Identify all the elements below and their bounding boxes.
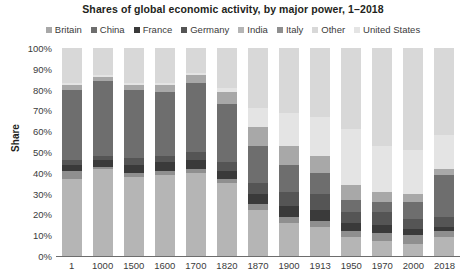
bar-segment[interactable] [248,48,268,108]
bar-segment[interactable] [341,223,361,231]
bar-segment[interactable] [403,235,423,243]
bar-segment[interactable] [217,48,237,88]
bar-segment[interactable] [403,150,423,194]
bar-segment[interactable] [155,92,175,156]
legend-label: China [100,25,125,35]
bar-segment[interactable] [217,183,237,256]
bar-segment[interactable] [434,48,454,135]
bar-segment[interactable] [248,146,268,183]
bar-segment[interactable] [186,173,206,256]
legend-item[interactable]: France [134,25,173,35]
bar-segment[interactable] [248,210,268,256]
stacked-bar[interactable] [279,48,299,256]
bar-segment[interactable] [310,156,330,173]
bar-segment[interactable] [155,48,175,83]
bar-segment[interactable] [279,206,299,216]
bar-segment[interactable] [248,183,268,193]
bar-segment[interactable] [217,171,237,179]
stacked-bar[interactable] [310,48,330,256]
stacked-bar[interactable] [217,48,237,256]
bar-segment[interactable] [403,48,423,150]
legend-item[interactable]: Italy [277,25,303,35]
stacked-bar[interactable] [124,48,144,256]
bar-segment[interactable] [434,217,454,227]
y-tick-label: 70% [33,105,52,116]
bar-segment[interactable] [186,75,206,83]
legend-item[interactable]: Germany [181,25,229,35]
bar-segment[interactable] [217,92,237,104]
legend-item[interactable]: United States [354,25,420,35]
bar-segment[interactable] [341,237,361,256]
bar-segment[interactable] [403,202,423,219]
bar-segment[interactable] [310,117,330,157]
bar-segment[interactable] [124,165,144,173]
legend-item[interactable]: China [91,25,125,35]
bar-segment[interactable] [279,146,299,165]
bar-segment[interactable] [403,219,423,229]
bar-slot [336,48,367,256]
bar-segment[interactable] [217,162,237,170]
bar-segment[interactable] [124,177,144,256]
bar-segment[interactable] [372,241,392,256]
bar-segment[interactable] [310,48,330,117]
bar-segment[interactable] [341,200,361,212]
bar-segment[interactable] [62,90,82,161]
bar-segment[interactable] [310,173,330,194]
bar-segment[interactable] [341,129,361,185]
bar-segment[interactable] [186,83,206,152]
stacked-bar[interactable] [341,48,361,256]
stacked-bar[interactable] [372,48,392,256]
bar-segment[interactable] [372,192,392,202]
bar-segment[interactable] [217,104,237,162]
bar-segment[interactable] [93,48,113,75]
bar-segment[interactable] [93,169,113,256]
bar-segment[interactable] [434,175,454,217]
bar-segment[interactable] [279,223,299,256]
stacked-bar[interactable] [248,48,268,256]
bar-segment[interactable] [310,194,330,211]
bar-segment[interactable] [186,160,206,168]
legend-item[interactable]: Other [312,25,345,35]
bar-segment[interactable] [93,81,113,156]
bar-segment[interactable] [372,212,392,224]
bar-segment[interactable] [124,90,144,159]
stacked-bar[interactable] [434,48,454,256]
bar-segment[interactable] [434,237,454,256]
bar-segment[interactable] [124,48,144,83]
bar-segment[interactable] [279,48,299,112]
stacked-bar[interactable] [62,48,82,256]
bar-segment[interactable] [155,162,175,170]
bar-segment[interactable] [248,108,268,127]
x-tick-label: 1913 [305,259,336,273]
bar-segment[interactable] [279,192,299,207]
bar-segment[interactable] [372,48,392,146]
bar-segment[interactable] [62,171,82,179]
bar-segment[interactable] [62,179,82,256]
bar-segment[interactable] [279,165,299,192]
bar-segment[interactable] [341,212,361,222]
bar-segment[interactable] [403,194,423,202]
bar-segment[interactable] [341,48,361,129]
bar-segment[interactable] [155,175,175,256]
bar-segment[interactable] [372,225,392,233]
bar-segment[interactable] [62,48,82,83]
bar-segment[interactable] [310,210,330,220]
legend-item[interactable]: Britain [46,25,82,35]
bar-segment[interactable] [248,127,268,146]
legend-item[interactable]: India [238,25,268,35]
bar-segment[interactable] [186,152,206,160]
bar-segment[interactable] [434,135,454,168]
bar-segment[interactable] [372,202,392,212]
bar-segment[interactable] [248,194,268,204]
bar-segment[interactable] [403,244,423,256]
bar-segment[interactable] [186,48,206,73]
stacked-bar[interactable] [186,48,206,256]
bar-segment[interactable] [279,113,299,146]
bar-segment[interactable] [310,227,330,256]
stacked-bar[interactable] [403,48,423,256]
stacked-bar[interactable] [155,48,175,256]
bar-segment[interactable] [372,233,392,241]
stacked-bar[interactable] [93,48,113,256]
bar-segment[interactable] [372,146,392,192]
bar-segment[interactable] [341,185,361,200]
